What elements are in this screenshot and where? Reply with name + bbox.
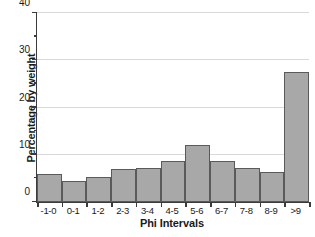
bar-cell xyxy=(210,13,235,202)
bar xyxy=(161,161,186,202)
x-axis-tick-label: 3-4 xyxy=(135,204,160,218)
bar xyxy=(111,169,136,202)
bar xyxy=(235,168,260,202)
bar xyxy=(37,174,62,202)
bar-cell xyxy=(62,13,87,202)
x-axis-tick-label: >9 xyxy=(283,204,308,218)
bar xyxy=(62,181,87,202)
bar-cell xyxy=(235,13,260,202)
bar-cell xyxy=(185,13,210,202)
bar xyxy=(210,161,235,202)
x-axis-tick-label: 6-7 xyxy=(209,204,234,218)
bar-cell xyxy=(86,13,111,202)
bar-cell xyxy=(37,13,62,202)
bar xyxy=(185,145,210,202)
bar xyxy=(86,177,111,202)
x-axis-tick-label: 0-1 xyxy=(61,204,86,218)
x-axis-tick-label: 1-2 xyxy=(85,204,110,218)
y-axis-tick-label: 0 xyxy=(24,187,30,197)
x-axis-tick-label: 7-8 xyxy=(234,204,259,218)
x-axis-tick-label: 8-9 xyxy=(259,204,284,218)
x-axis-tick-label: 2-3 xyxy=(110,204,135,218)
bar-group xyxy=(37,13,309,202)
x-axis-tick-label: -1-0 xyxy=(36,204,61,218)
y-axis-tick-label: 40 xyxy=(19,0,30,8)
bar xyxy=(260,172,285,202)
x-axis-tick-label-group: -1-00-11-22-33-44-55-66-77-88-9>9 xyxy=(36,204,308,218)
x-axis-tick xyxy=(309,202,311,207)
bar-chart: Percentage by weight 010203040 -1-00-11-… xyxy=(0,0,315,237)
bar-cell xyxy=(161,13,186,202)
y-axis-tick-label: 30 xyxy=(19,45,30,55)
bar xyxy=(284,72,309,202)
y-axis-tick-label: 10 xyxy=(19,140,30,150)
bar-cell xyxy=(111,13,136,202)
x-axis-tick-label: 4-5 xyxy=(160,204,185,218)
plot-area: 010203040 xyxy=(36,13,309,203)
x-axis-title: Phi Intervals xyxy=(36,217,308,229)
bar-cell xyxy=(284,13,309,202)
bar xyxy=(136,168,161,202)
bar-cell xyxy=(136,13,161,202)
bar-cell xyxy=(260,13,285,202)
x-axis-tick-label: 5-6 xyxy=(184,204,209,218)
y-axis-tick-label: 20 xyxy=(19,93,30,103)
